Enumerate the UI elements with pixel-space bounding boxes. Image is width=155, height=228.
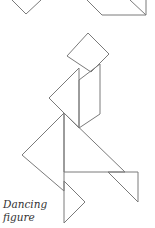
caption-line-2: figure [3, 211, 47, 224]
foot-triangle-right [108, 172, 138, 202]
cropped-parallelogram-piece [87, 0, 146, 15]
body-parallelogram [79, 64, 100, 128]
large-triangle-left [22, 113, 64, 191]
caption-line-1: Dancing [3, 198, 47, 211]
tangram-illustration [0, 0, 155, 228]
large-triangle-right [64, 113, 125, 172]
head-square [67, 33, 109, 72]
cropped-square-piece [12, 0, 41, 14]
small-triangle-bottom [64, 181, 85, 223]
figure-caption: Dancing figure [3, 198, 47, 224]
